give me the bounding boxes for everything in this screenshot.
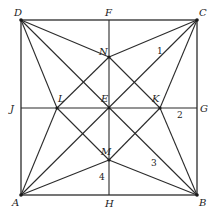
point-a [19, 193, 23, 197]
angle-label-1: 1 [157, 46, 163, 56]
point-n [107, 55, 110, 58]
label-a: A [11, 197, 19, 208]
label-k: K [151, 93, 160, 104]
label-e: E [100, 93, 109, 104]
label-c: C [199, 7, 207, 18]
label-f: F [104, 7, 113, 18]
line-am [21, 160, 109, 195]
angle-label-3: 3 [151, 158, 157, 168]
line-al [21, 108, 57, 195]
point-d [19, 18, 23, 22]
geometry-diagram: D F C N J L E K G M A H B 1 2 3 4 [0, 0, 218, 217]
label-d: D [13, 7, 22, 18]
point-m [107, 158, 110, 161]
label-n: N [98, 46, 109, 57]
label-j: J [8, 103, 15, 114]
point-l [55, 106, 58, 109]
label-b: B [198, 197, 206, 208]
label-m: M [100, 146, 112, 157]
label-h: H [104, 198, 114, 209]
angle-label-2: 2 [177, 110, 183, 120]
point-k [158, 106, 161, 109]
point-c [195, 18, 199, 22]
label-l: L [57, 93, 65, 104]
point-e [108, 107, 111, 110]
angle-label-4: 4 [99, 172, 105, 182]
label-g: G [200, 103, 208, 114]
